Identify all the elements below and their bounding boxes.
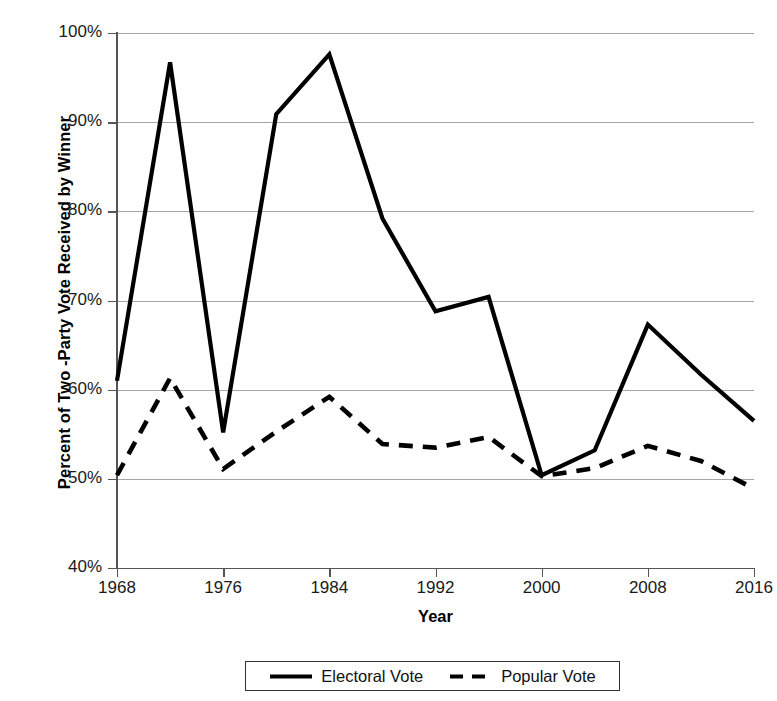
x-axis-tick	[117, 569, 118, 577]
gridline	[117, 390, 754, 391]
y-axis-tick-label: 90%	[30, 111, 102, 131]
legend-label-electoral-vote: Electoral Vote	[321, 667, 423, 686]
gridline	[117, 211, 754, 212]
y-axis-tick-label: 50%	[30, 468, 102, 488]
y-axis-tick-label: 40%	[30, 557, 102, 577]
gridline	[117, 122, 754, 123]
x-axis-tick	[223, 569, 224, 577]
legend-swatch-dashed-line	[449, 670, 493, 683]
legend-label-popular-vote: Popular Vote	[501, 667, 596, 686]
x-axis-tick-label: 2008	[603, 578, 693, 598]
y-axis-tick-label: 100%	[30, 22, 102, 42]
x-axis-tick-label: 2000	[497, 578, 587, 598]
gridline	[117, 301, 754, 302]
x-axis-tick-label: 1976	[178, 578, 268, 598]
y-axis-tick-label: 80%	[30, 200, 102, 220]
legend-swatch-solid-line	[269, 670, 313, 683]
x-axis-tick-label: 2016	[709, 578, 777, 598]
y-axis-tick-labels: 100%90%80%70%60%50%40%	[22, 0, 102, 600]
gridline	[117, 479, 754, 480]
gridline	[117, 33, 754, 34]
x-axis-tick-label: 1992	[391, 578, 481, 598]
x-axis-tick-label: 1984	[284, 578, 374, 598]
y-axis-tick-label: 70%	[30, 290, 102, 310]
x-axis-tick	[648, 569, 649, 577]
y-axis-tick-label: 60%	[30, 379, 102, 399]
x-axis-tick	[329, 569, 330, 577]
series-line-electoral-vote	[117, 54, 754, 475]
x-axis-tick	[754, 569, 755, 577]
x-axis-tick	[436, 569, 437, 577]
chart-legend: Electoral Vote Popular Vote	[245, 661, 620, 691]
series-line-popular-vote	[117, 378, 754, 489]
x-axis-tick-label: 1968	[72, 578, 162, 598]
legend-entry-electoral-vote: Electoral Vote	[269, 667, 423, 686]
x-axis-tick	[542, 569, 543, 577]
legend-entry-popular-vote: Popular Vote	[449, 667, 596, 686]
y-axis-line	[116, 32, 118, 569]
x-axis-title: Year	[117, 607, 754, 626]
